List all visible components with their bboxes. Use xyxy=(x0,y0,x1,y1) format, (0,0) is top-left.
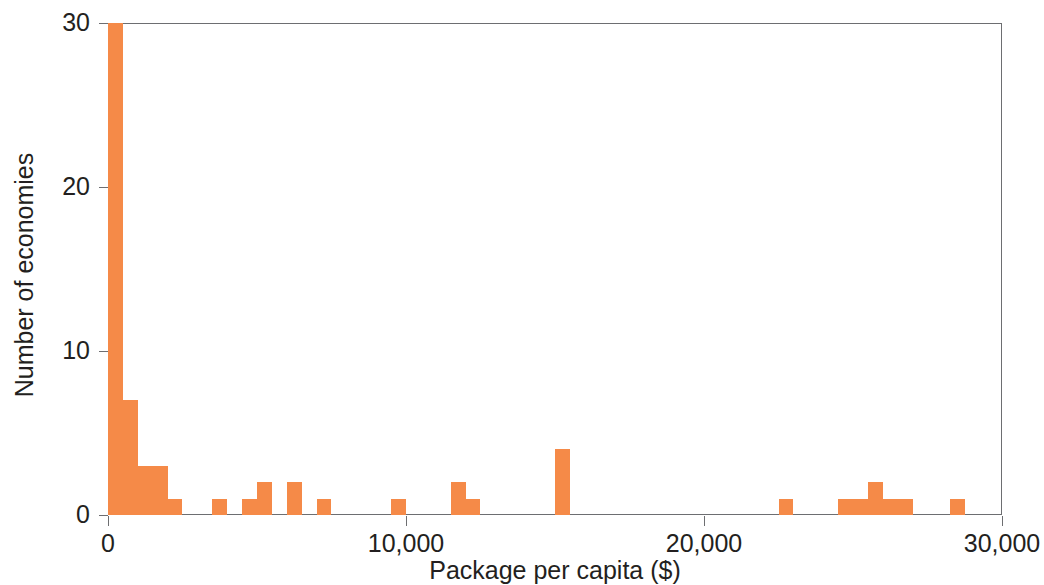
y-tick-label: 0 xyxy=(0,502,90,527)
histogram-bar xyxy=(898,499,913,515)
histogram-bar xyxy=(555,449,570,515)
y-tick-mark xyxy=(99,351,108,352)
histogram-bar xyxy=(242,499,257,515)
histogram-bar xyxy=(168,499,183,515)
x-tick-mark xyxy=(704,516,705,526)
histogram-bar xyxy=(779,499,794,515)
x-tick-label: 0 xyxy=(28,530,188,557)
x-tick-mark xyxy=(406,516,407,526)
histogram-bar xyxy=(317,499,332,515)
histogram-bar xyxy=(287,482,302,515)
histogram-bar xyxy=(950,499,965,515)
y-axis-title: Number of economies xyxy=(11,55,37,495)
x-tick-label: 20,000 xyxy=(624,530,784,557)
histogram-bar xyxy=(153,466,168,515)
histogram-bar xyxy=(138,466,153,515)
y-tick-mark xyxy=(99,515,108,516)
histogram-bar xyxy=(883,499,898,515)
x-tick-label: 30,000 xyxy=(922,530,1044,557)
plot-area xyxy=(108,23,1002,515)
x-tick-mark xyxy=(1002,516,1003,526)
y-tick-label: 20 xyxy=(0,174,90,199)
x-tick-label: 10,000 xyxy=(326,530,486,557)
histogram-bar xyxy=(868,482,883,515)
histogram-bar xyxy=(212,499,227,515)
y-tick-mark xyxy=(99,23,108,24)
histogram-bar xyxy=(853,499,868,515)
y-tick-label: 10 xyxy=(0,338,90,363)
y-tick-mark xyxy=(99,187,108,188)
histogram-bar xyxy=(838,499,853,515)
histogram-bar xyxy=(391,499,406,515)
histogram-bar xyxy=(466,499,481,515)
histogram-bar xyxy=(108,23,123,515)
y-tick-label: 30 xyxy=(0,10,90,35)
x-tick-mark xyxy=(108,516,109,526)
x-axis-title: Package per capita ($) xyxy=(108,557,1002,584)
histogram-bar xyxy=(123,400,138,515)
histogram-bar xyxy=(451,482,466,515)
histogram-bar xyxy=(257,482,272,515)
